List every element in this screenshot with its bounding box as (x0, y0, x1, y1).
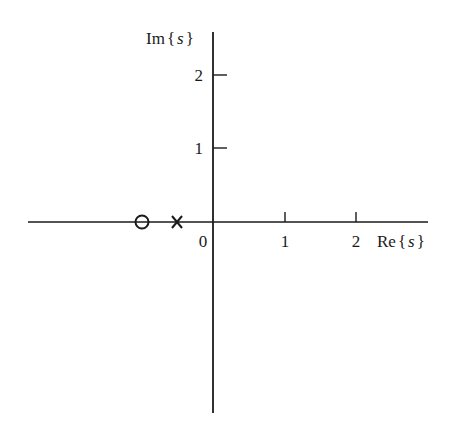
imag-tick-label-1: 1 (195, 139, 204, 158)
imag-tick-label-2: 2 (195, 66, 204, 85)
real-tick-label-1: 1 (281, 232, 290, 251)
pole-zero-plot: 1 2 1 2 0 Re{s} Im{s} (0, 0, 452, 433)
real-axis-label: Re{s} (377, 232, 425, 251)
origin-label: 0 (199, 232, 208, 251)
real-tick-label-2: 2 (352, 232, 361, 251)
imag-axis-label: Im{s} (146, 29, 194, 48)
